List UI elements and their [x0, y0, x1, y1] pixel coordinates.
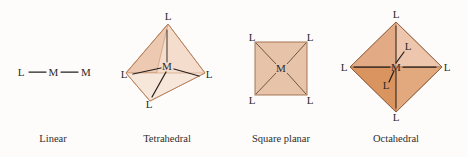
octahedral-ligand-back-label: L	[405, 40, 412, 52]
diagram-tetrahedral: L L L L M	[121, 10, 213, 110]
square-planar-ligand-top-right-label: L	[307, 31, 314, 43]
coordination-geometry-figure: L M M L L L L M	[0, 0, 468, 157]
caption-octahedral: Octahedral	[373, 133, 419, 144]
diagram-linear: L M M	[18, 66, 91, 78]
caption-row: Linear Tetrahedral Square planar Octahed…	[39, 133, 419, 144]
caption-square-planar: Square planar	[252, 133, 311, 144]
tetrahedral-ligand-left-label: L	[121, 68, 128, 80]
diagram-octahedral: L L L L L L M	[341, 8, 451, 123]
square-planar-ligand-bottom-left-label: L	[249, 94, 256, 106]
octahedral-ligand-front-label: L	[383, 79, 390, 91]
diagram-square-planar: L L L L M	[249, 31, 314, 106]
caption-linear: Linear	[39, 133, 67, 144]
octahedral-ligand-top-label: L	[393, 8, 400, 20]
tetrahedral-ligand-bottom-label: L	[146, 98, 153, 110]
linear-ligand-right-label: M	[81, 66, 91, 78]
octahedral-metal-label: M	[391, 61, 401, 73]
octahedral-ligand-right-label: L	[444, 61, 451, 73]
tetrahedral-ligand-top-label: L	[165, 10, 172, 22]
tetrahedral-metal-label: M	[162, 60, 172, 72]
linear-ligand-left-label: L	[18, 66, 25, 78]
square-planar-ligand-top-left-label: L	[249, 31, 256, 43]
square-planar-metal-label: M	[276, 62, 286, 74]
octahedral-ligand-left-label: L	[341, 61, 348, 73]
square-planar-ligand-bottom-right-label: L	[307, 94, 314, 106]
caption-tetrahedral: Tetrahedral	[143, 133, 191, 144]
tetrahedral-ligand-right-label: L	[206, 68, 213, 80]
linear-metal-label: M	[49, 66, 59, 78]
octahedral-ligand-bottom-label: L	[393, 111, 400, 123]
